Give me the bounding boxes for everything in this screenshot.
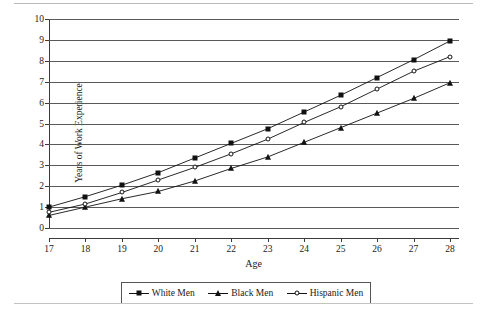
x-tick-label-20: 20 <box>154 244 164 254</box>
data-point-hispanic-men-age-27 <box>411 69 416 74</box>
data-point-hispanic-men-age-25 <box>338 104 343 109</box>
x-tick-label-19: 19 <box>117 244 127 254</box>
y-tick-label-3: 3 <box>39 160 44 170</box>
legend-label-black-men: Black Men <box>231 288 273 298</box>
chart-legend: White Men Black Men Hispanic Men <box>121 282 371 304</box>
data-point-white-men-age-28 <box>448 38 453 43</box>
data-point-black-men-age-27 <box>411 95 417 101</box>
data-point-black-men-age-23 <box>265 154 271 160</box>
data-point-white-men-age-26 <box>375 75 380 80</box>
x-axis-line <box>49 238 459 239</box>
data-point-black-men-age-24 <box>301 139 307 145</box>
data-point-black-men-age-28 <box>447 79 453 85</box>
data-point-black-men-age-19 <box>119 195 125 201</box>
data-point-black-men-age-26 <box>374 110 380 116</box>
data-point-hispanic-men-age-26 <box>375 87 380 92</box>
y-tick-label-0: 0 <box>39 223 44 233</box>
x-tick-mark-22 <box>231 238 232 242</box>
data-point-hispanic-men-age-28 <box>448 54 453 59</box>
legend-item-black-men: Black Men <box>208 288 273 298</box>
x-tick-mark-27 <box>414 238 415 242</box>
x-tick-mark-23 <box>268 238 269 242</box>
data-point-white-men-age-19 <box>119 183 124 188</box>
x-tick-label-25: 25 <box>336 244 346 254</box>
data-point-white-men-age-18 <box>83 194 88 199</box>
legend-item-white-men: White Men <box>129 288 195 298</box>
page-rule-bottom <box>14 303 473 304</box>
data-point-hispanic-men-age-17 <box>47 210 52 215</box>
data-point-hispanic-men-age-23 <box>265 137 270 142</box>
y-tick-label-8: 8 <box>39 56 44 66</box>
series-line-white-men <box>49 41 450 207</box>
x-tick-mark-21 <box>195 238 196 242</box>
legend-marker-open-circle-icon <box>287 289 307 298</box>
x-tick-label-27: 27 <box>409 244 419 254</box>
legend-marker-filled-triangle-icon <box>208 289 228 298</box>
data-point-hispanic-men-age-19 <box>119 190 124 195</box>
gridline-y-0 <box>49 228 459 229</box>
x-tick-mark-20 <box>158 238 159 242</box>
data-point-white-men-age-23 <box>265 126 270 131</box>
figure-page: Years of Work Experience 012345678910 17… <box>0 0 487 315</box>
y-tick-label-1: 1 <box>39 202 44 212</box>
data-point-hispanic-men-age-22 <box>229 151 234 156</box>
x-tick-label-17: 17 <box>44 244 54 254</box>
data-point-white-men-age-27 <box>411 57 416 62</box>
legend-item-hispanic-men: Hispanic Men <box>287 288 364 298</box>
y-tick-label-6: 6 <box>39 98 44 108</box>
data-point-hispanic-men-age-24 <box>302 120 307 125</box>
y-tick-label-7: 7 <box>39 77 44 87</box>
x-tick-mark-19 <box>122 238 123 242</box>
x-axis-title-text: Age <box>245 258 262 269</box>
cropped-caption-remnant <box>105 0 225 3</box>
data-point-white-men-age-22 <box>229 141 234 146</box>
plot-area: 012345678910 <box>49 19 459 228</box>
legend-marker-filled-square-icon <box>129 289 149 298</box>
x-tick-label-28: 28 <box>445 244 455 254</box>
data-point-black-men-age-22 <box>228 165 234 171</box>
x-tick-label-21: 21 <box>190 244 200 254</box>
x-tick-mark-17 <box>49 238 50 242</box>
data-point-black-men-age-20 <box>155 188 161 194</box>
data-point-hispanic-men-age-21 <box>192 165 197 170</box>
data-point-white-men-age-25 <box>338 93 343 98</box>
x-tick-mark-26 <box>377 238 378 242</box>
x-tick-label-18: 18 <box>81 244 91 254</box>
x-tick-mark-24 <box>304 238 305 242</box>
data-point-hispanic-men-age-20 <box>156 177 161 182</box>
x-tick-label-23: 23 <box>263 244 273 254</box>
legend-label-hispanic-men: Hispanic Men <box>310 288 364 298</box>
x-axis-title: Age <box>0 258 487 269</box>
x-tick-mark-25 <box>341 238 342 242</box>
y-tick-mark-0 <box>45 228 49 229</box>
legend-label-white-men: White Men <box>152 288 195 298</box>
x-tick-label-22: 22 <box>227 244 237 254</box>
x-tick-label-26: 26 <box>372 244 382 254</box>
y-tick-label-10: 10 <box>35 14 45 24</box>
series-line-black-men <box>49 83 450 216</box>
page-rule-top <box>14 3 473 4</box>
data-point-white-men-age-24 <box>302 110 307 115</box>
line-chart: Years of Work Experience 012345678910 17… <box>0 10 487 260</box>
data-point-hispanic-men-age-18 <box>83 201 88 206</box>
x-tick-mark-28 <box>450 238 451 242</box>
y-tick-label-2: 2 <box>39 181 44 191</box>
data-point-black-men-age-21 <box>192 178 198 184</box>
x-tick-label-24: 24 <box>299 244 309 254</box>
series-layer <box>49 19 459 228</box>
y-tick-label-4: 4 <box>39 139 44 149</box>
y-tick-label-5: 5 <box>39 119 44 129</box>
data-point-black-men-age-25 <box>338 124 344 130</box>
y-tick-label-9: 9 <box>39 35 44 45</box>
data-point-white-men-age-21 <box>192 155 197 160</box>
data-point-white-men-age-20 <box>156 170 161 175</box>
x-tick-mark-18 <box>85 238 86 242</box>
